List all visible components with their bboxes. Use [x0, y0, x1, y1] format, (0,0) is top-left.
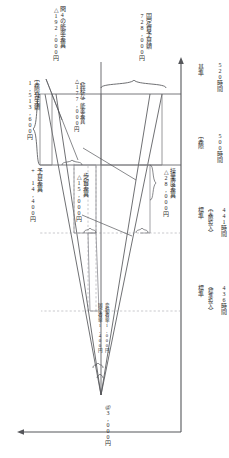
axis-tick-std-std-value: 436時間: [208, 285, 229, 315]
callout-efficiency-q4: 問4の能率差異△192,000円: [40, 6, 78, 61]
callout-actual-cost: 実際発生額1,513,600円: [14, 80, 52, 140]
callout-pure-efficiency: （純粋な）能率差異△177,000円: [62, 78, 96, 131]
variance-diagram-canvas: 問4の能率差異△192,000円 固定費予算額728,000円 実際発生額1,5…: [0, 0, 229, 458]
label-fixed-rate: 固定費率1,400円: [87, 303, 111, 353]
callout-yield-variance: 歩留差異△15,000円: [63, 173, 101, 222]
axis-tick-normal-value: 520時間: [204, 62, 229, 92]
callout-capacity-variance: 操業度差異△28,000円: [150, 168, 188, 217]
callout-fixed-budget: 固定費予算額728,000円: [126, 13, 164, 61]
axis-tick-std-actual-value: 441時間: [208, 207, 229, 237]
callout-budget-variance: 予算差異+ 14,400円: [17, 168, 55, 222]
axis-tick-actual-value: 500時間: [204, 133, 229, 163]
label-origin-rate: @3,000円: [92, 404, 123, 446]
